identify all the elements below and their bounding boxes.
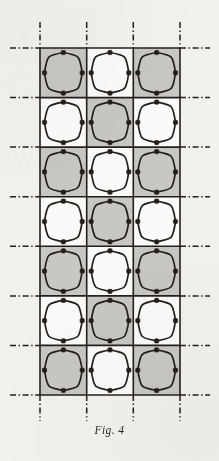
motif-connector-bottom-icon xyxy=(61,141,65,145)
motif-outline xyxy=(45,53,83,94)
motif-connector-top-icon xyxy=(155,249,159,253)
motif-outline xyxy=(45,152,83,193)
motif-connector-bottom-icon xyxy=(108,91,112,95)
cell-motif xyxy=(136,348,178,393)
figure-caption: Fig. 4 xyxy=(0,424,219,436)
cell-motif xyxy=(136,249,178,294)
motif-connector-top-icon xyxy=(155,150,159,154)
motif-connector-right-icon xyxy=(173,120,177,124)
motif-connector-top-icon xyxy=(155,298,159,302)
motif-connector-left-icon xyxy=(42,219,46,223)
motif-connector-bottom-icon xyxy=(155,190,159,194)
motif-connector-top-icon xyxy=(108,100,112,104)
motif-connector-right-icon xyxy=(80,319,84,323)
motif-connector-left-icon xyxy=(136,368,140,372)
cell-motif xyxy=(89,50,131,95)
motif-connector-bottom-icon xyxy=(61,91,65,95)
motif-connector-bottom-icon xyxy=(155,289,159,293)
motif-connector-right-icon xyxy=(127,219,131,223)
motif-connector-left-icon xyxy=(42,368,46,372)
motif-connector-right-icon xyxy=(127,319,131,323)
motif-connector-top-icon xyxy=(61,348,65,352)
motif-connector-right-icon xyxy=(173,368,177,372)
motif-outline xyxy=(91,201,129,242)
cell-motif xyxy=(89,348,131,393)
motif-outline xyxy=(138,53,176,94)
cell-motif xyxy=(42,249,84,294)
motif-connector-right-icon xyxy=(80,170,84,174)
motif-connector-bottom-icon xyxy=(108,388,112,392)
motif-connector-bottom-icon xyxy=(155,339,159,343)
motif-connector-left-icon xyxy=(136,71,140,75)
motif-connector-left-icon xyxy=(136,269,140,273)
motif-outline xyxy=(138,102,176,143)
motif-connector-bottom-icon xyxy=(108,240,112,244)
motif-connector-left-icon xyxy=(89,120,93,124)
motif-outline xyxy=(138,350,176,391)
motif-connector-left-icon xyxy=(42,319,46,323)
motif-connector-right-icon xyxy=(173,269,177,273)
motif-connector-bottom-icon xyxy=(155,240,159,244)
motif-connector-left-icon xyxy=(42,71,46,75)
motif-connector-top-icon xyxy=(61,50,65,54)
motif-connector-top-icon xyxy=(108,199,112,203)
motif-outline xyxy=(45,300,83,341)
motif-connector-bottom-icon xyxy=(61,190,65,194)
motif-connector-left-icon xyxy=(89,219,93,223)
motif-connector-right-icon xyxy=(173,219,177,223)
motif-connector-bottom-icon xyxy=(108,339,112,343)
cell-motif xyxy=(89,199,131,244)
figure-drawing xyxy=(0,0,219,461)
motif-connector-top-icon xyxy=(108,150,112,154)
motif-connector-left-icon xyxy=(89,319,93,323)
motif-connector-right-icon xyxy=(80,269,84,273)
motif-outline xyxy=(138,201,176,242)
motif-connector-right-icon xyxy=(127,269,131,273)
motif-connector-top-icon xyxy=(108,348,112,352)
motif-outline xyxy=(91,350,129,391)
motif-connector-left-icon xyxy=(136,170,140,174)
motif-connector-left-icon xyxy=(42,269,46,273)
motif-connector-left-icon xyxy=(89,71,93,75)
cell-motif xyxy=(136,199,178,244)
motif-connector-right-icon xyxy=(80,71,84,75)
motif-connector-bottom-icon xyxy=(61,339,65,343)
motif-connector-top-icon xyxy=(61,150,65,154)
cell-motif xyxy=(136,50,178,95)
cell-motif xyxy=(89,249,131,294)
motif-connector-bottom-icon xyxy=(108,190,112,194)
cell-motif xyxy=(42,150,84,195)
motif-connector-top-icon xyxy=(61,100,65,104)
cell-motif xyxy=(136,150,178,195)
cell-motif xyxy=(136,100,178,145)
motif-connector-bottom-icon xyxy=(61,240,65,244)
motif-outline xyxy=(45,350,83,391)
motif-connector-bottom-icon xyxy=(155,141,159,145)
motif-connector-right-icon xyxy=(173,71,177,75)
motif-connector-top-icon xyxy=(155,348,159,352)
motif-connector-top-icon xyxy=(61,298,65,302)
motif-connector-right-icon xyxy=(127,120,131,124)
motif-connector-top-icon xyxy=(155,100,159,104)
cell-motif xyxy=(42,348,84,393)
motif-connector-top-icon xyxy=(155,50,159,54)
motif-connector-left-icon xyxy=(42,170,46,174)
motif-connector-left-icon xyxy=(89,269,93,273)
motif-outline xyxy=(91,300,129,341)
motif-outline xyxy=(91,251,129,292)
motif-connector-left-icon xyxy=(89,170,93,174)
motif-outline xyxy=(138,152,176,193)
motif-outline xyxy=(138,300,176,341)
motif-connector-bottom-icon xyxy=(155,91,159,95)
motif-connector-top-icon xyxy=(108,50,112,54)
motif-connector-right-icon xyxy=(80,219,84,223)
cell-motif xyxy=(42,298,84,343)
motif-connector-left-icon xyxy=(89,368,93,372)
cell-motif xyxy=(89,100,131,145)
motif-connector-bottom-icon xyxy=(61,388,65,392)
motif-connector-bottom-icon xyxy=(108,289,112,293)
cell-motif xyxy=(136,298,178,343)
motif-connector-right-icon xyxy=(127,71,131,75)
cell-motif xyxy=(89,150,131,195)
motif-outline xyxy=(45,251,83,292)
